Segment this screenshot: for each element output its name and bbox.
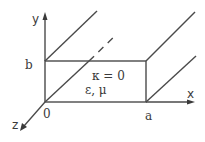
material-label: ε, μ bbox=[85, 83, 107, 97]
z-axis bbox=[24, 102, 45, 126]
edge-top-left bbox=[45, 11, 97, 61]
edge-hidden-dashed bbox=[89, 34, 117, 61]
y-axis-arrow-icon bbox=[43, 12, 48, 20]
y-axis-label: y bbox=[32, 12, 39, 26]
edge-top-right bbox=[146, 12, 195, 61]
edge-hidden-solid bbox=[45, 61, 89, 102]
width-label-a: a bbox=[145, 109, 152, 123]
conductivity-label: κ = 0 bbox=[92, 69, 125, 83]
z-axis-label: z bbox=[12, 118, 18, 132]
waveguide-diagram: y x z b 0 a κ = 0 ε, μ bbox=[0, 0, 205, 142]
origin-label: 0 bbox=[43, 107, 51, 121]
height-label-b: b bbox=[25, 58, 33, 72]
x-axis-label: x bbox=[187, 87, 194, 101]
